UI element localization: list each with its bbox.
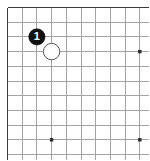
black-stone-move-1 [29, 29, 45, 45]
stones-group [29, 29, 60, 60]
star-point-lower-left [50, 138, 53, 141]
goban-grid [0, 0, 149, 160]
star-point-upper-right [138, 50, 141, 53]
star-point-lower-right [138, 138, 141, 141]
go-board-diagram: 1 [0, 0, 149, 160]
grid-lines [8, 8, 150, 161]
white-stone [43, 43, 59, 59]
board-edge-lines [8, 8, 150, 161]
